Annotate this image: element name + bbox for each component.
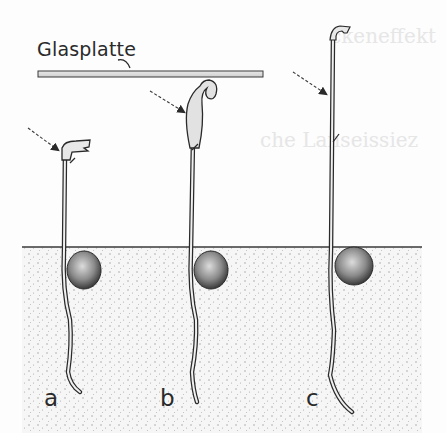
seedling-b-label: b [160, 385, 175, 411]
seedling-a-label: a [44, 385, 58, 411]
glass-plate-label: Glasplatte [37, 38, 136, 60]
seedling-diagram: ckeneffekt che Lanseissiez [0, 0, 446, 433]
glass-plate [38, 60, 263, 77]
illustration [0, 0, 446, 433]
seedling-c-label: c [306, 385, 319, 411]
